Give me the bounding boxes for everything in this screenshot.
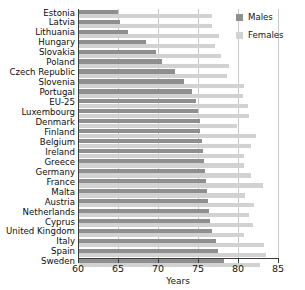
bar-females-austria: [79, 203, 254, 207]
bar-females-eu-25: [79, 104, 248, 108]
category-label-ireland: Ireland: [0, 147, 75, 157]
tick-label-75: 75: [192, 263, 204, 274]
category-label-belgium: Belgium: [0, 137, 75, 147]
bar-females-luxembourg: [79, 114, 249, 118]
bar-females-malta: [79, 193, 245, 197]
bar-females-netherlands: [79, 213, 249, 217]
bar-females-ireland: [79, 154, 244, 158]
bar-females-lithuania: [79, 34, 219, 38]
category-label-germany: Germany: [0, 167, 75, 177]
category-label-cyprus: Cyprus: [0, 217, 75, 227]
legend-item-males: Males: [236, 12, 284, 22]
tick-label-70: 70: [152, 263, 164, 274]
bar-females-cyprus: [79, 223, 253, 227]
tick-label-65: 65: [112, 263, 124, 274]
category-label-finland: Finland: [0, 127, 75, 137]
category-label-netherlands: Netherlands: [0, 207, 75, 217]
bar-females-spain: [79, 253, 266, 257]
legend-label-females: Females: [248, 30, 284, 40]
category-label-austria: Austria: [0, 197, 75, 207]
legend-label-males: Males: [248, 12, 273, 22]
legend-swatch-males-icon: [236, 14, 243, 21]
bar-females-poland: [79, 64, 229, 68]
bar-females-czech-republic: [79, 74, 227, 78]
bar-females-latvia: [79, 24, 212, 28]
category-label-france: France: [0, 177, 75, 187]
bar-females-slovakia: [79, 54, 221, 58]
bar-females-estonia: [79, 14, 212, 18]
category-label-luxembourg: Luxembourg: [0, 107, 75, 117]
tick-label-85: 85: [272, 263, 284, 274]
category-label-czech-republic: Czech Republic: [0, 67, 75, 77]
category-label-greece: Greece: [0, 157, 75, 167]
category-label-malta: Malta: [0, 187, 75, 197]
bar-females-france: [79, 183, 263, 187]
legend-item-females: Females: [236, 30, 284, 40]
bar-females-belgium: [79, 144, 251, 148]
category-label-lithuania: Lithuania: [0, 27, 75, 37]
bar-females-denmark: [79, 124, 237, 128]
category-label-eu-25: EU-25: [0, 97, 75, 107]
category-label-denmark: Denmark: [0, 117, 75, 127]
legend-swatch-females-icon: [236, 32, 243, 39]
x-axis-label: Years: [166, 276, 190, 286]
category-label-estonia: Estonia: [0, 8, 75, 18]
category-label-hungary: Hungary: [0, 37, 75, 47]
bar-females-finland: [79, 134, 256, 138]
bar-females-greece: [79, 163, 244, 167]
bar-females-united-kingdom: [79, 233, 244, 237]
tick-label-80: 80: [232, 263, 244, 274]
category-label-slovenia: Slovenia: [0, 77, 75, 87]
legend: Males Females: [236, 12, 284, 48]
bar-females-slovenia: [79, 84, 244, 88]
bar-females-portugal: [79, 94, 243, 98]
category-label-slovakia: Slovakia: [0, 47, 75, 57]
category-label-italy: Italy: [0, 236, 75, 246]
bar-females-germany: [79, 173, 251, 177]
healthy-life-years-bar-chart: EstoniaLatviaLithuaniaHungarySlovakiaPol…: [0, 0, 305, 290]
category-label-poland: Poland: [0, 57, 75, 67]
bar-females-italy: [79, 243, 264, 247]
category-label-portugal: Portugal: [0, 87, 75, 97]
category-label-spain: Spain: [0, 246, 75, 256]
category-label-united-kingdom: United Kingdom: [0, 226, 75, 236]
tick-label-60: 60: [72, 263, 84, 274]
category-label-sweden: Sweden: [0, 256, 75, 266]
category-label-latvia: Latvia: [0, 17, 75, 27]
bar-females-hungary: [79, 44, 215, 48]
